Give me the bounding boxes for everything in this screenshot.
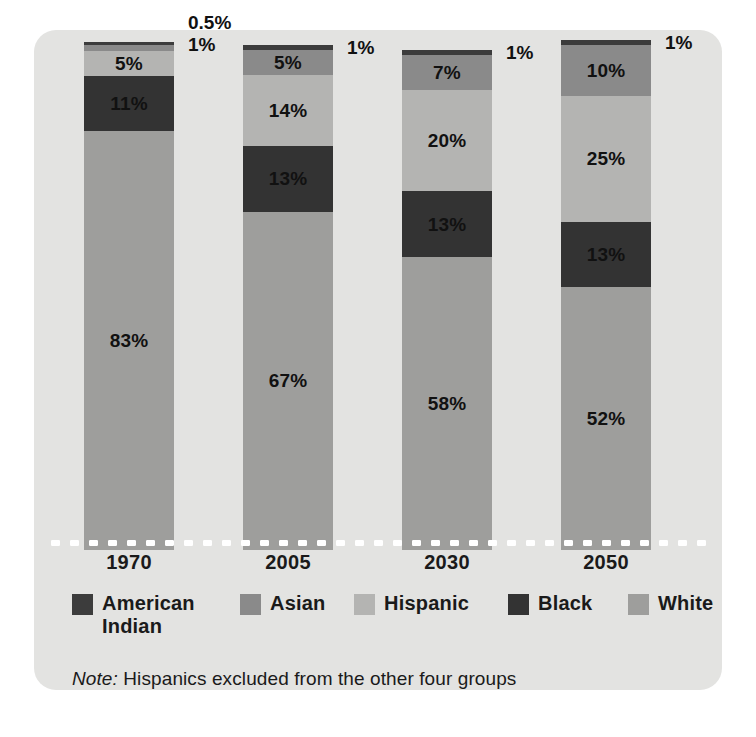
bar-segment-white[interactable]: 58%: [402, 257, 492, 550]
bar-group: 5%11%83%0.5%1%: [84, 40, 174, 550]
bar-segment-white[interactable]: 83%: [84, 131, 174, 550]
outside-value-labels: 1%: [347, 37, 374, 58]
stacked-bar[interactable]: 10%25%13%52%: [561, 40, 651, 550]
segment-value-label: 83%: [110, 331, 149, 350]
x-axis-tick-2030: 2030: [402, 551, 492, 574]
legend-label: Asian: [270, 592, 325, 615]
bar-segment-white[interactable]: 52%: [561, 287, 651, 550]
bar-segment-black[interactable]: 11%: [84, 76, 174, 132]
segment-value-label: 20%: [428, 131, 467, 150]
plot-area: 5%11%83%0.5%1%5%14%13%67%1%7%20%13%58%1%…: [34, 30, 722, 550]
bar-group: 7%20%13%58%1%: [402, 40, 492, 550]
legend-item-american[interactable]: American Indian: [72, 592, 195, 638]
segment-value-label: 14%: [269, 101, 308, 120]
outside-value-label: 1%: [506, 42, 533, 63]
segment-value-label: 11%: [110, 94, 148, 113]
bar-segment-black[interactable]: 13%: [561, 222, 651, 288]
legend-label: Hispanic: [384, 592, 469, 615]
stacked-bar[interactable]: 5%14%13%67%: [243, 45, 333, 550]
segment-value-label: 52%: [587, 409, 626, 428]
bar-group: 5%14%13%67%1%: [243, 40, 333, 550]
note-text: Hispanics excluded from the other four g…: [118, 668, 517, 689]
bar-segment-hispanic[interactable]: 25%: [561, 96, 651, 222]
legend-item-black[interactable]: Black: [508, 592, 592, 615]
bar-segment-black[interactable]: 13%: [243, 146, 333, 212]
outside-value-label: 1%: [188, 34, 231, 55]
chart-card: 5%11%83%0.5%1%5%14%13%67%1%7%20%13%58%1%…: [34, 30, 722, 690]
x-axis-tick-2050: 2050: [561, 551, 651, 574]
bar-segment-asian[interactable]: 5%: [243, 50, 333, 75]
legend-swatch-icon: [508, 594, 529, 615]
segment-value-label: 5%: [274, 53, 302, 72]
segment-value-label: 5%: [115, 54, 143, 73]
legend-swatch-icon: [72, 594, 93, 615]
legend-item-white[interactable]: White: [628, 592, 713, 615]
legend-swatch-icon: [628, 594, 649, 615]
legend-label: American Indian: [102, 592, 195, 638]
note-prefix: Note:: [72, 668, 118, 689]
bar-segment-hispanic[interactable]: 20%: [402, 90, 492, 191]
legend-label: Black: [538, 592, 592, 615]
segment-value-label: 13%: [428, 215, 467, 234]
outside-value-label: 0.5%: [188, 12, 231, 33]
outside-value-label: 1%: [665, 32, 692, 53]
bar-segment-hispanic[interactable]: 5%: [84, 51, 174, 76]
x-axis: 1970200520302050: [34, 551, 722, 585]
legend: American IndianAsianHispanicBlackWhite: [72, 592, 702, 650]
bar-group: 10%25%13%52%1%: [561, 40, 651, 550]
legend-swatch-icon: [354, 594, 375, 615]
segment-value-label: 58%: [428, 394, 467, 413]
x-axis-tick-2005: 2005: [243, 551, 333, 574]
bar-segment-asian[interactable]: 10%: [561, 45, 651, 96]
segment-value-label: 25%: [587, 149, 626, 168]
bar-segment-black[interactable]: 13%: [402, 191, 492, 257]
segment-value-label: 13%: [269, 169, 308, 188]
outside-value-label: 1%: [347, 37, 374, 58]
legend-label: White: [658, 592, 713, 615]
bar-segment-hispanic[interactable]: 14%: [243, 75, 333, 146]
axis-baseline-dotted: [46, 540, 706, 546]
stacked-bar[interactable]: 7%20%13%58%: [402, 50, 492, 550]
bar-segment-asian[interactable]: 7%: [402, 55, 492, 90]
bar-segment-white[interactable]: 67%: [243, 212, 333, 550]
legend-item-hispanic[interactable]: Hispanic: [354, 592, 469, 615]
segment-value-label: 7%: [433, 63, 461, 82]
segment-value-label: 13%: [587, 245, 626, 264]
stacked-bar[interactable]: 5%11%83%: [84, 42, 174, 550]
chart-note: Note: Hispanics excluded from the other …: [72, 668, 516, 690]
outside-value-labels: 1%: [506, 42, 533, 63]
legend-item-asian[interactable]: Asian: [240, 592, 325, 615]
outside-value-labels: 0.5%1%: [188, 12, 231, 55]
x-axis-tick-1970: 1970: [84, 551, 174, 574]
segment-value-label: 10%: [587, 61, 626, 80]
legend-swatch-icon: [240, 594, 261, 615]
segment-value-label: 67%: [269, 371, 308, 390]
outside-value-labels: 1%: [665, 32, 692, 53]
